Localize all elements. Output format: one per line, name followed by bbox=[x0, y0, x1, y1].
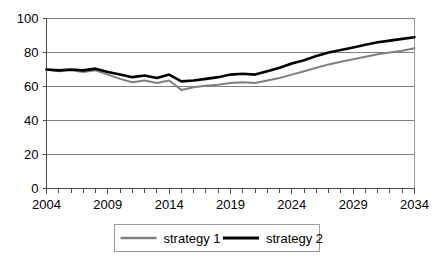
legend-label-1: strategy 1 bbox=[164, 231, 221, 246]
legend-label-2: strategy 2 bbox=[266, 231, 323, 246]
y-tick-label-80: 80 bbox=[24, 45, 38, 60]
x-tick-label-2034: 2034 bbox=[400, 197, 429, 212]
x-tick-label-2009: 2009 bbox=[93, 197, 122, 212]
x-axis-group bbox=[47, 189, 415, 194]
x-tick-label-2004: 2004 bbox=[32, 197, 61, 212]
y-tick-label-20: 20 bbox=[24, 147, 38, 162]
y-tick-label-40: 40 bbox=[24, 113, 38, 128]
y-tick-label-60: 60 bbox=[24, 79, 38, 94]
y-tick-label-100: 100 bbox=[17, 11, 39, 26]
x-tick-label-2029: 2029 bbox=[339, 197, 368, 212]
x-tick-label-2024: 2024 bbox=[277, 197, 306, 212]
x-tick-label-2019: 2019 bbox=[216, 197, 245, 212]
y-axis-group bbox=[43, 19, 47, 189]
line-chart: 020406080100 200420092014201920242029203… bbox=[0, 0, 433, 265]
x-tick-label-2014: 2014 bbox=[155, 197, 184, 212]
series-group bbox=[47, 37, 415, 90]
series-line-2 bbox=[47, 37, 415, 81]
legend: strategy 1strategy 2 bbox=[115, 225, 324, 252]
x-tick-labels: 2004200920142019202420292034 bbox=[32, 197, 429, 212]
gridlines-group bbox=[47, 19, 415, 189]
y-tick-label-0: 0 bbox=[31, 181, 38, 196]
y-tick-labels: 020406080100 bbox=[17, 11, 39, 196]
chart-canvas: 020406080100 200420092014201920242029203… bbox=[0, 0, 433, 265]
